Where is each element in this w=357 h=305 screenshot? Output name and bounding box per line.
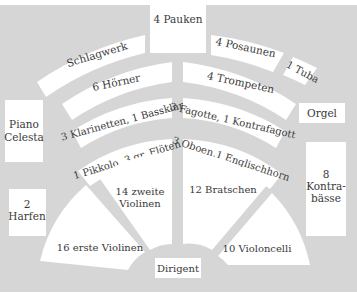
svg-text:10 Violoncelli: 10 Violoncelli: [223, 243, 292, 254]
kontrabaesse-box: 8 Kontra- bässe: [306, 142, 346, 236]
svg-text:Harfen: Harfen: [8, 210, 46, 222]
orgel-box: Orgel: [299, 103, 345, 123]
svg-text:Piano: Piano: [9, 118, 39, 130]
svg-text:14 zweite: 14 zweite: [116, 186, 165, 197]
svg-text:Violinen: Violinen: [118, 198, 161, 209]
harfen-box: 2 Harfen: [8, 189, 46, 236]
svg-text:8: 8: [323, 168, 330, 180]
svg-text:Orgel: Orgel: [307, 107, 338, 119]
pauken-box: 4 Pauken: [150, 5, 206, 53]
svg-text:16 erste Violinen: 16 erste Violinen: [57, 242, 144, 253]
piano-celesta-box: Piano Celesta: [4, 100, 44, 162]
svg-text:4 Pauken: 4 Pauken: [154, 13, 203, 25]
svg-text:bässe: bässe: [311, 192, 341, 204]
svg-text:12 Bratschen: 12 Bratschen: [189, 184, 257, 195]
dirigent-box: Dirigent: [155, 258, 201, 278]
svg-text:Dirigent: Dirigent: [157, 263, 199, 274]
svg-text:2: 2: [24, 198, 31, 210]
orchestra-seating-diagram: 4 Pauken Schlagwerk 4 Posaunen 1 Tuba 6 …: [0, 0, 357, 305]
svg-text:Celesta: Celesta: [4, 131, 44, 143]
svg-text:Kontra-: Kontra-: [306, 180, 346, 192]
